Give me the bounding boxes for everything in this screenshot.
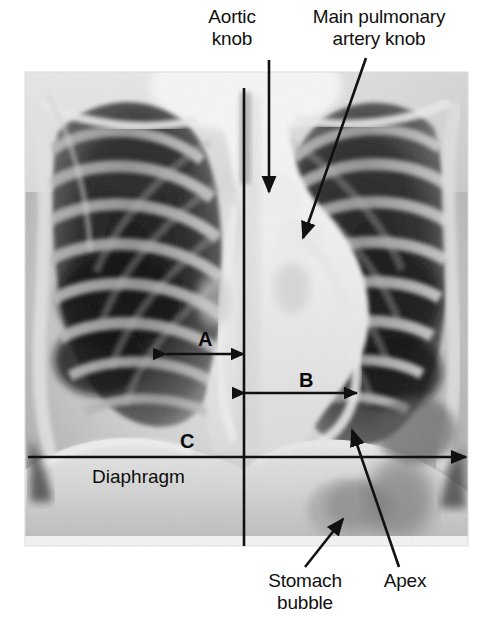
label-stomach-bubble: Stomach bubble — [249, 570, 361, 614]
label-apex: Apex — [368, 570, 442, 592]
measure-label-b: B — [299, 370, 313, 390]
measure-label-c: C — [180, 431, 194, 451]
measure-label-a: A — [198, 329, 212, 349]
label-aortic-knob: Aortic knob — [186, 6, 278, 50]
chest-xray-image — [0, 0, 480, 621]
label-main-pulmonary-artery-knob: Main pulmonary artery knob — [286, 6, 472, 50]
chest-xray-figure: Aortic knob Main pulmonary artery knob S… — [0, 0, 480, 621]
label-diaphragm: Diaphragm — [92, 466, 185, 487]
